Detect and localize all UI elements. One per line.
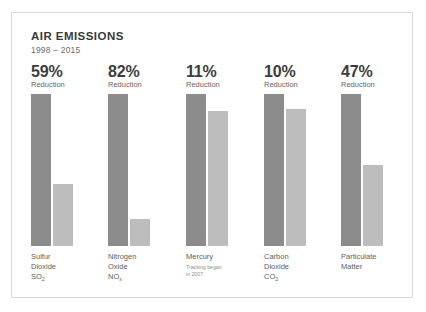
reduction-percent: 82%	[108, 63, 139, 80]
page-title: AIR EMISSIONS	[31, 30, 124, 43]
bar-current-2015	[208, 111, 228, 246]
reduction-label: Reduction	[186, 80, 220, 89]
category-label-line2: Oxide	[108, 262, 174, 272]
bars-wrap	[264, 94, 326, 246]
bar-current-2015	[130, 219, 150, 246]
category-label-line1: Particulate	[341, 252, 407, 262]
category-label-line1: Sulfur	[31, 252, 97, 262]
bar-group-sulfur-dioxide: 59% Reduction Sulfur Dioxide SO2	[31, 63, 93, 281]
chart-subtitle: 1998 – 2015	[31, 45, 124, 56]
category-label-line1: Mercury	[186, 252, 252, 262]
category-formula: SO2	[31, 272, 97, 282]
formula-subscript: x	[119, 276, 122, 282]
bars-wrap	[341, 94, 403, 246]
formula-main: NO	[108, 272, 119, 281]
category-label-line1: Nitrogen	[108, 252, 174, 262]
bar-group-mercury: 11% Reduction Mercury Tracking began in …	[186, 63, 248, 281]
reduction-percent: 59%	[31, 63, 62, 80]
bars-wrap	[186, 94, 248, 246]
bar-current-2015	[363, 165, 383, 246]
bar-chart-plot-area: 59% Reduction Sulfur Dioxide SO2 82% Red…	[31, 63, 397, 281]
bar-baseline-1998	[264, 94, 284, 246]
category-formula: NOx	[108, 272, 174, 282]
formula-subscript: 2	[42, 276, 45, 282]
category-label: Carbon Dioxide CO2	[264, 252, 330, 282]
category-label-line2: Dioxide	[31, 262, 97, 272]
bars-wrap	[31, 94, 93, 246]
reduction-percent: 47%	[341, 63, 372, 80]
category-formula: CO2	[264, 272, 330, 282]
category-label: Mercury Tracking began in 2007	[186, 252, 252, 277]
category-label: Nitrogen Oxide NOx	[108, 252, 174, 282]
formula-main: SO	[31, 272, 42, 281]
reduction-label: Reduction	[341, 80, 375, 89]
formula-subscript: 2	[275, 276, 278, 282]
bar-current-2015	[286, 109, 306, 246]
bar-baseline-1998	[341, 94, 361, 246]
reduction-percent: 10%	[264, 63, 295, 80]
infographic-card: AIR EMISSIONS 1998 – 2015 59% Reduction …	[11, 12, 413, 298]
bar-group-particulate-matter: 47% Reduction Particulate Matter	[341, 63, 403, 281]
bar-group-carbon-dioxide: 10% Reduction Carbon Dioxide CO2	[264, 63, 326, 281]
bar-baseline-1998	[31, 94, 51, 246]
category-label-line2: Dioxide	[264, 262, 330, 272]
header-block: AIR EMISSIONS 1998 – 2015	[31, 30, 124, 56]
category-note-line1: Tracking began	[186, 264, 252, 271]
bars-wrap	[108, 94, 170, 246]
category-label: Sulfur Dioxide SO2	[31, 252, 97, 282]
reduction-percent: 11%	[186, 63, 217, 80]
category-label: Particulate Matter	[341, 252, 407, 272]
bar-current-2015	[53, 184, 73, 246]
category-label-line2: Matter	[341, 262, 407, 272]
bar-group-nitrogen-oxide: 82% Reduction Nitrogen Oxide NOx	[108, 63, 170, 281]
reduction-label: Reduction	[264, 80, 298, 89]
formula-main: CO	[264, 272, 275, 281]
reduction-label: Reduction	[108, 80, 142, 89]
bar-baseline-1998	[186, 94, 206, 246]
bar-baseline-1998	[108, 94, 128, 246]
category-label-line1: Carbon	[264, 252, 330, 262]
reduction-label: Reduction	[31, 80, 65, 89]
category-note-line2: in 2007	[186, 271, 252, 278]
